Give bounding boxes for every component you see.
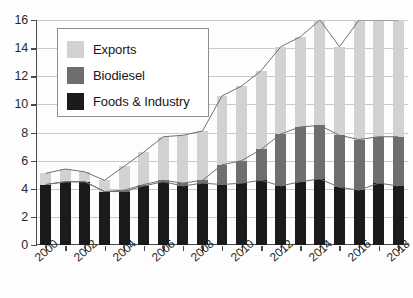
bar-group (158, 137, 169, 245)
bar-group (79, 172, 90, 245)
bar-segment-exports (79, 172, 90, 182)
y-axis-tick-label: 0 (2, 238, 28, 252)
legend-swatch-biodiesel (67, 67, 84, 84)
bar-segment-foods-industry (314, 179, 325, 245)
bar-segment-exports (275, 47, 286, 134)
bar-segment-biodiesel (256, 149, 267, 180)
bar-segment-exports (373, 20, 384, 137)
y-axis-tick-label: 10 (2, 97, 28, 111)
bar-segment-exports (314, 20, 325, 125)
y-axis-tick-label: 12 (2, 69, 28, 83)
bar-group (295, 37, 306, 245)
x-tick-mark (65, 246, 66, 251)
bar-segment-biodiesel (334, 135, 345, 187)
bar-segment-foods-industry (275, 186, 286, 245)
bar-segment-foods-industry (334, 187, 345, 245)
bar-segment-biodiesel (373, 137, 384, 183)
bar-segment-exports (158, 137, 169, 181)
bar-segment-exports (256, 71, 267, 150)
bar-group (138, 152, 149, 245)
stacked-bar-chart: 0246810121416 20002002200420062008201020… (0, 0, 413, 298)
bar-group (60, 169, 71, 245)
bar-segment-exports (236, 86, 247, 161)
x-tick-mark (105, 246, 106, 251)
legend-label-foods-industry: Foods & Industry (93, 94, 190, 109)
bar-segment-foods-industry (373, 183, 384, 245)
bar-group (177, 135, 188, 245)
chart-legend: Exports Biodiesel Foods & Industry (57, 28, 209, 117)
bar-segment-foods-industry (79, 182, 90, 245)
bar-segment-exports (354, 20, 365, 140)
y-axis-tick-label: 4 (2, 182, 28, 196)
x-axis: 2000200220042006200820102012201420162018 (36, 246, 408, 298)
bar-group (373, 20, 384, 245)
bar-segment-foods-industry (217, 185, 228, 245)
x-tick-mark (261, 246, 262, 251)
bar-group (119, 166, 130, 245)
bar-segment-foods-industry (60, 182, 71, 245)
bar-group (197, 131, 208, 245)
bar-segment-exports (138, 152, 149, 184)
bar-segment-foods-industry (99, 192, 110, 245)
y-axis-tick-label: 6 (2, 154, 28, 168)
x-tick-mark (144, 246, 145, 251)
bar-segment-exports (334, 47, 345, 136)
y-axis-tick-label: 2 (2, 210, 28, 224)
bar-group (217, 96, 228, 245)
y-axis-tick-label: 8 (2, 126, 28, 140)
y-axis: 0246810121416 (0, 20, 28, 245)
x-tick-mark (339, 246, 340, 251)
bar-segment-exports (99, 180, 110, 191)
bar-segment-biodiesel (217, 165, 228, 185)
bar-group (334, 47, 345, 245)
bar-group (314, 20, 325, 245)
bar-group (99, 180, 110, 245)
bar-segment-biodiesel (314, 125, 325, 178)
legend-swatch-exports (67, 41, 84, 58)
y-axis-tick-label: 16 (2, 13, 28, 27)
bar-segment-foods-industry (177, 186, 188, 245)
bar-segment-biodiesel (393, 137, 404, 186)
bar-segment-biodiesel (354, 140, 365, 191)
legend-item-exports: Exports (67, 36, 208, 62)
bar-group (354, 20, 365, 245)
bar-segment-exports (60, 169, 71, 182)
legend-item-biodiesel: Biodiesel (67, 62, 208, 88)
bar-segment-biodiesel (295, 127, 306, 182)
bar-segment-exports (217, 96, 228, 165)
bar-group (256, 71, 267, 245)
bar-segment-foods-industry (256, 180, 267, 245)
bar-segment-exports (119, 166, 130, 190)
bar-segment-biodiesel (138, 185, 149, 186)
bar-segment-foods-industry (295, 182, 306, 245)
bar-group (275, 47, 286, 245)
bar-group (40, 173, 51, 245)
bar-segment-foods-industry (40, 185, 51, 245)
bar-group (236, 86, 247, 245)
bar-segment-biodiesel (236, 161, 247, 184)
bar-segment-foods-industry (236, 183, 247, 245)
bar-segment-exports (393, 20, 404, 137)
y-axis-tick-label: 14 (2, 41, 28, 55)
bar-segment-exports (295, 37, 306, 127)
x-tick-mark (379, 246, 380, 251)
x-tick-mark (300, 246, 301, 251)
bar-segment-biodiesel (197, 180, 208, 183)
bar-segment-foods-industry (158, 182, 169, 245)
x-tick-mark (183, 246, 184, 251)
bar-group (393, 20, 404, 245)
legend-swatch-foods-industry (67, 93, 84, 110)
bar-segment-biodiesel (275, 134, 286, 186)
legend-label-exports: Exports (93, 42, 136, 57)
bar-segment-exports (40, 173, 51, 184)
legend-label-biodiesel: Biodiesel (93, 68, 145, 83)
bar-segment-exports (177, 135, 188, 183)
x-tick-mark (222, 246, 223, 251)
bar-segment-exports (197, 131, 208, 180)
legend-item-foods-industry: Foods & Industry (67, 88, 208, 114)
bar-segment-foods-industry (138, 186, 149, 245)
bar-segment-biodiesel (158, 180, 169, 181)
bar-segment-biodiesel (177, 183, 188, 186)
bar-segment-biodiesel (119, 190, 130, 191)
